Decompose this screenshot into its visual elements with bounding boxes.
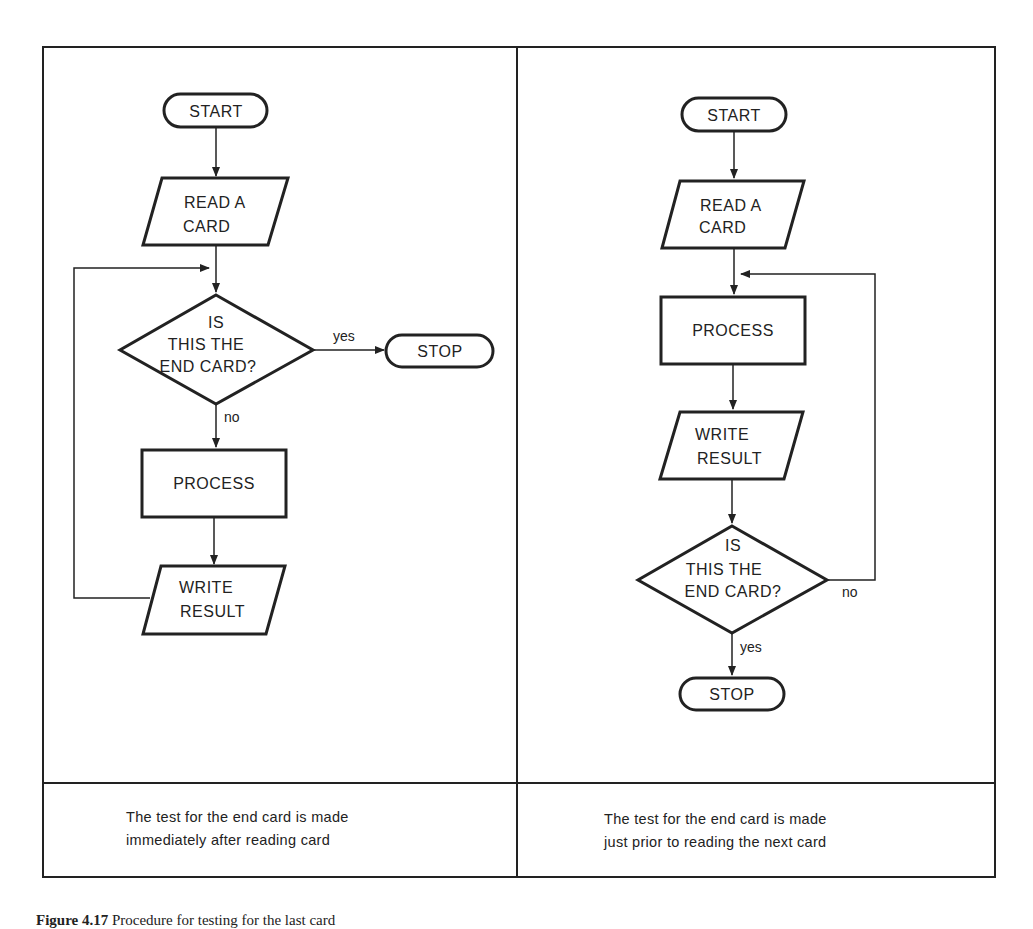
- right-start-label: START: [707, 107, 760, 124]
- right-no-label: no: [842, 584, 858, 600]
- right-write-line2: RESULT: [697, 450, 762, 467]
- right-write-line1: WRITE: [695, 426, 749, 443]
- left-yes-label: yes: [333, 328, 355, 344]
- right-decision-line1: IS: [725, 537, 741, 554]
- left-process-box: PROCESS: [142, 450, 286, 517]
- left-read-line1: READ A: [184, 194, 246, 211]
- right-stop-label: STOP: [709, 686, 754, 703]
- left-stop-label: STOP: [417, 343, 462, 360]
- figure-caption: Figure 4.17 Procedure for testing for th…: [36, 912, 335, 929]
- right-panel-caption: The test for the end card is made just p…: [604, 808, 827, 854]
- figure-caption-text: Procedure for testing for the last card: [112, 912, 335, 928]
- left-read-card-input: READ A CARD: [143, 178, 288, 245]
- right-flowchart: START READ A CARD PROCESS WRITE RESULT I…: [638, 98, 875, 710]
- left-start-label: START: [189, 103, 242, 120]
- left-decision-line2: THIS THE: [168, 336, 245, 353]
- right-process-label: PROCESS: [692, 322, 774, 339]
- right-write-result-output: WRITE RESULT: [660, 412, 803, 479]
- right-read-line1: READ A: [700, 197, 762, 214]
- right-yes-label: yes: [740, 639, 762, 655]
- left-decision-line3: END CARD?: [160, 358, 257, 375]
- left-write-result-output: WRITE RESULT: [143, 566, 285, 634]
- left-panel-caption: The test for the end card is made immedi…: [126, 806, 349, 852]
- left-read-line2: CARD: [183, 218, 230, 235]
- left-start-terminal: START: [164, 94, 267, 127]
- right-process-box: PROCESS: [661, 297, 805, 364]
- right-caption-line1: The test for the end card is made: [604, 808, 827, 831]
- right-start-terminal: START: [682, 98, 786, 131]
- left-process-label: PROCESS: [173, 475, 255, 492]
- left-stop-terminal: STOP: [386, 335, 493, 367]
- right-stop-terminal: STOP: [680, 678, 784, 710]
- left-decision-line1: IS: [208, 314, 224, 331]
- right-decision-line3: END CARD?: [685, 583, 782, 600]
- right-read-line2: CARD: [699, 219, 746, 236]
- right-end-card-decision: IS THIS THE END CARD?: [638, 526, 827, 633]
- left-write-line2: RESULT: [180, 603, 245, 620]
- left-flowchart: START READ A CARD IS THIS THE END CARD? …: [74, 94, 493, 634]
- left-no-label: no: [224, 409, 240, 425]
- left-caption-line1: The test for the end card is made: [126, 806, 349, 829]
- left-end-card-decision: IS THIS THE END CARD?: [120, 295, 313, 404]
- left-write-line1: WRITE: [179, 579, 233, 596]
- right-read-card-input: READ A CARD: [662, 181, 804, 248]
- right-caption-line2: just prior to reading the next card: [604, 831, 827, 854]
- left-caption-line2: immediately after reading card: [126, 829, 349, 852]
- figure-number: Figure 4.17: [36, 912, 108, 928]
- right-decision-line2: THIS THE: [686, 561, 763, 578]
